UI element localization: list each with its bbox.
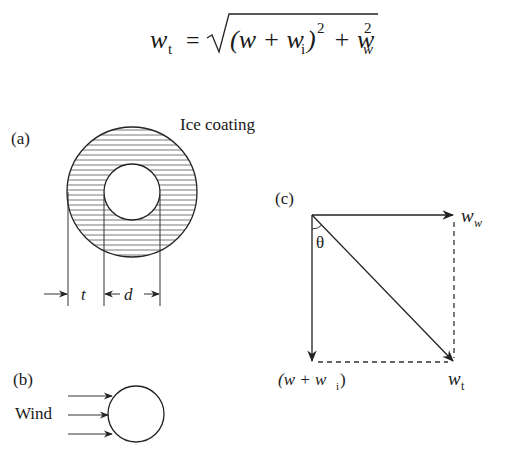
panel-c-vector-diagram: (c) θ w w w t (w + w i ) [275, 189, 482, 393]
ice-coating-label: Ice coating [180, 115, 256, 134]
ice-wind-load-diagram: w t = (w + w i ) 2 + w w 2 (a) Ice coati… [0, 0, 513, 465]
equation-term-open: (w + w [230, 25, 305, 54]
wt-label: w [448, 368, 461, 389]
theta-label: θ [316, 233, 324, 252]
conductor-circle [104, 164, 160, 220]
panel-b-wind-on-conductor: (b) Wind [13, 370, 164, 442]
theta-angle-arc [312, 225, 322, 229]
w-plus-wi-label: (w + w [278, 370, 327, 389]
equation-superscript-2: 2 [364, 20, 372, 36]
equation-last-subscript: w [363, 41, 373, 57]
ww-subscript: w [474, 216, 482, 230]
panel-a-label: (a) [11, 129, 30, 148]
wind-label: Wind [15, 404, 53, 423]
panel-b-label: (b) [13, 370, 33, 389]
panel-c-label: (c) [275, 189, 294, 208]
ww-label: w [461, 205, 474, 226]
panel-a-ice-coated-conductor: (a) Ice coating [11, 115, 256, 306]
equation-equals: = [186, 27, 200, 53]
conductor-cross-section [108, 386, 164, 442]
equation-lhs-subscript: t [168, 41, 173, 57]
equation: w t = (w + w i ) 2 + w w 2 [150, 14, 378, 57]
wt-subscript: t [461, 379, 465, 393]
resultant-load-vector [312, 215, 453, 361]
w-plus-wi-close: ) [340, 370, 346, 389]
equation-term-close: ) [305, 25, 316, 54]
diameter-d-label: d [124, 285, 133, 304]
thickness-t-label: t [81, 285, 87, 304]
equation-inner-subscript: i [301, 41, 305, 57]
equation-lhs: w [150, 25, 168, 54]
wi-subscript: i [336, 380, 339, 392]
equation-superscript-1: 2 [317, 20, 325, 36]
